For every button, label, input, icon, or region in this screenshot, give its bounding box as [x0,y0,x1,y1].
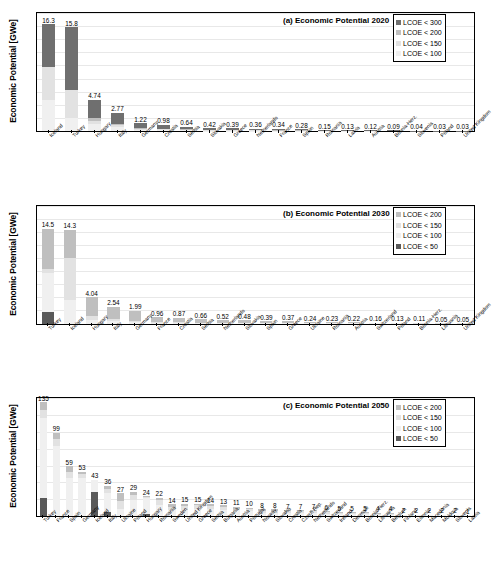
bar: 4.04 [86,297,98,323]
x-label-cell: Macedonia [422,518,435,556]
x-label-cell: Netherlands [306,518,319,556]
legend-swatch [396,436,401,441]
legend-swatch [396,415,401,420]
x-label-cell: Portugal [242,518,255,556]
bar-cell: 0.23 [321,206,343,324]
bar-value-label: 36 [104,478,111,485]
bar-cell: 135 [37,398,50,516]
legend-swatch [396,51,401,56]
bar-cell: 4.04 [81,206,103,324]
bar-segment-1 [42,273,54,313]
panel-title: (a) Economic Potential 2020 [283,16,389,25]
bar-cell: 14.3 [59,206,81,324]
x-label-cell: Poland [126,518,139,556]
bar-cell: 5 [346,398,359,516]
x-axis-labels: TurkeyIcelandHungaryItalyGermanyFranceCr… [36,326,473,364]
x-label-cell: France [145,326,167,364]
y-axis-ticks: 020406080100120140 [0,397,36,515]
bar-cell: 0.87 [168,206,190,324]
bar-cell: 53 [76,398,89,516]
bar-segment-1 [53,446,60,516]
bar-cell: 4.74 [83,13,106,131]
bar-value-label: 15.8 [65,20,77,27]
x-label-cell: Switzerland [364,326,386,364]
x-label-cell: Poland [427,133,450,171]
x-label-cell: Spain [254,326,276,364]
legend: LCOE < 200LCOE < 150LCOE < 100LCOE < 50 [393,207,446,255]
bar-cell: 14 [166,398,179,516]
x-label-cell: Finland [396,518,409,556]
bar-value-label: 14.3 [64,222,76,229]
bar-cell: 8 [256,398,269,516]
panel-a-economic-potential-2020: Economic Potential [GWe]0246810121416181… [0,0,477,193]
bar-cell: 5 [333,398,346,516]
bar-segment-3 [40,402,47,410]
panel-title: (b) Economic Potential 2030 [283,209,390,218]
bar-segment-1 [78,478,85,516]
x-label-cell: Hungary [82,133,105,171]
x-label-cell: Poland [386,326,408,364]
legend-label: LCOE < 50 [403,243,438,250]
bar: 14.5 [42,229,54,324]
legend-swatch [396,41,401,46]
bar-value-label: 14.5 [42,221,54,228]
bar-cell: 0.36 [244,13,267,131]
legend-item: LCOE < 100 [396,423,442,434]
x-label-cell: Hungary [139,518,152,556]
bar-value-label: 10 [246,500,253,507]
legend-swatch [396,20,401,25]
legend-item: LCOE < 100 [396,49,442,60]
bar-cell: 0.48 [234,206,256,324]
bar-cell: 36 [101,398,114,516]
legend-item: LCOE < 300 [396,17,442,28]
legend-item: LCOE < 200 [396,402,442,413]
x-label-cell: Slovenia [448,518,461,556]
bar-value-label: 29 [130,484,137,491]
x-label-cell: Ukraine [298,326,320,364]
x-label-cell: Austria [229,518,242,556]
x-label-cell: Switzerland [319,518,332,556]
bar-value-label: 0.64 [180,119,192,126]
x-label-cell: Bosnia-Herz. [407,326,429,364]
x-label-cell: Greece [220,133,243,171]
bar-value-label: 0.39 [226,121,238,128]
bar-cell: 11 [230,398,243,516]
bar-segment-3 [129,311,141,321]
x-label-cell: Romania [152,518,165,556]
legend-swatch [396,212,401,217]
bar-cell: 7 [307,398,320,516]
bar-value-label: 0.66 [195,312,207,319]
legend-swatch [396,30,401,35]
x-label-cell: Slovenia [404,133,427,171]
legend-item: LCOE < 150 [396,413,442,424]
bar-segment-3 [64,230,76,258]
bar-cell: 0.28 [290,13,313,131]
bar-segment-3 [65,27,78,89]
x-label-cell: Czech Rep. [293,518,306,556]
bar-cell: 15 [178,398,191,516]
x-label-cell: Netherlands [211,326,233,364]
x-label-cell: Turkey [36,326,58,364]
bar-cell: 0.64 [175,13,198,131]
bar-value-label: 1.99 [129,303,141,310]
x-label-cell: Latvia [335,133,358,171]
bar-cell: 16.3 [37,13,60,131]
legend-label: LCOE < 200 [403,29,442,36]
bar-cell: 0.34 [267,13,290,131]
bar-cell: 2 [449,398,462,516]
x-label-cell: Romania [320,326,342,364]
bar-value-label: 22 [156,490,163,497]
bar-cell: 8 [268,398,281,516]
bar-segment-3 [86,297,98,316]
x-label-cell: Lithuania [429,326,451,364]
bar: 14.3 [64,230,76,324]
x-label-cell: Serbia [174,133,197,171]
legend-item: LCOE < 150 [396,38,442,49]
bar-cell: 0.96 [146,206,168,324]
bar-segment-1 [65,90,78,119]
legend-label: LCOE < 100 [403,425,442,432]
bar: 27 [117,493,124,516]
bar-value-label: 14 [168,497,175,504]
bar-cell: 0.39 [255,206,277,324]
x-label-cell: Romania [312,133,335,171]
